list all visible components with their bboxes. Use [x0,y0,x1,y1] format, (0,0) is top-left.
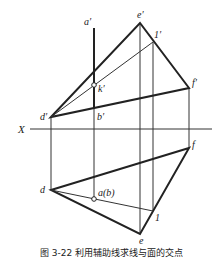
label-b-prime: b′ [97,111,105,122]
triangle-front-view [51,23,189,117]
figure-caption: 图 3-22 利用辅助线求线与面的交点 [0,246,223,259]
label-e: e [139,235,144,246]
label-1-prime: 1′ [154,29,162,40]
label-d: d [40,184,46,195]
label-k-prime: k′ [98,83,105,94]
label-f-prime: f′ [192,77,198,88]
x-axis-label: X [17,123,26,135]
label-f: f [192,139,196,150]
label-d-prime: d′ [40,111,48,122]
triangle-top-view [51,148,189,234]
label-e-prime: e′ [137,9,144,20]
label-a-prime: a′ [84,16,92,27]
point-ab [92,197,97,202]
point-k-prime [92,83,97,88]
label-1: 1 [155,212,160,223]
label-a-b: a(b) [98,187,115,199]
